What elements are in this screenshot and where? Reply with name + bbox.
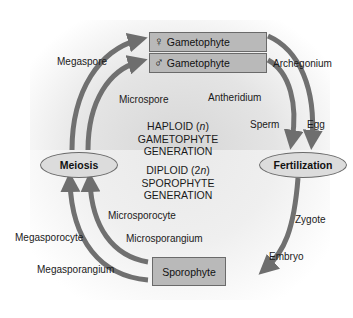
male-gametophyte-label: Gametophyte (167, 57, 230, 69)
male-gametophyte-box: ♂ Gametophyte (149, 53, 267, 73)
megaspore-label: Megaspore (57, 56, 107, 68)
haploid-line2: GAMETOPHYTE (123, 133, 233, 146)
megasporocyte-label: Megasporocyte (15, 232, 83, 244)
embryo-label: Embryo (269, 251, 303, 263)
male-symbol-icon: ♂ (154, 57, 164, 69)
microsporocyte-label: Microsporocyte (108, 210, 176, 222)
meiosis-oval: Meiosis (40, 152, 118, 178)
microspore-label: Microspore (119, 94, 168, 106)
female-gametophyte-box: ♀ Gametophyte (149, 32, 267, 52)
haploid-line3: GENERATION (123, 145, 233, 158)
sporophyte-label: Sporophyte (162, 266, 216, 278)
female-gametophyte-label: Gametophyte (167, 36, 230, 48)
haploid-line1-prefix: HAPLOID ( (147, 120, 200, 132)
megasporangium-label: Megasporangium (37, 264, 114, 276)
haploid-generation-label: HAPLOID (n) GAMETOPHYTE GENERATION (123, 120, 233, 158)
diploid-line3: GENERATION (123, 189, 233, 202)
zygote-label: Zygote (295, 214, 326, 226)
archegonium-label: Archegonium (273, 58, 332, 70)
meiosis-label: Meiosis (60, 159, 99, 171)
fertilization-label: Fertilization (274, 159, 333, 171)
diploid-line1-suffix: ) (206, 164, 210, 176)
sporophyte-box: Sporophyte (152, 257, 226, 286)
sperm-label: Sperm (250, 119, 279, 131)
egg-label: Egg (307, 119, 325, 131)
diploid-line2: SPOROPHYTE (123, 177, 233, 190)
female-symbol-icon: ♀ (154, 36, 164, 48)
antheridium-label: Antheridium (208, 92, 261, 104)
diploid-line1-prefix: DIPLOID (2 (146, 164, 200, 176)
haploid-line1-suffix: ) (205, 120, 209, 132)
microsporangium-label: Microsporangium (126, 233, 203, 245)
life-cycle-diagram: ♀ Gametophyte ♂ Gametophyte Sporophyte M… (0, 0, 353, 318)
diploid-generation-label: DIPLOID (2n) SPOROPHYTE GENERATION (123, 164, 233, 202)
fertilization-oval: Fertilization (259, 152, 347, 178)
